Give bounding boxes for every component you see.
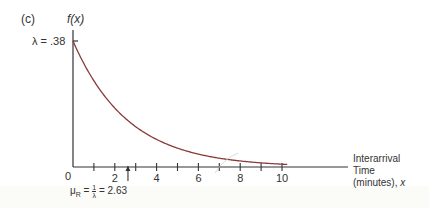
- x-tick-label: 8: [237, 173, 243, 184]
- x-tick-label: 4: [154, 173, 160, 184]
- x-axis-label-line-3: (minutes), x: [353, 177, 405, 189]
- x-tick-label: 10: [276, 173, 288, 184]
- density-curve: [73, 41, 287, 164]
- panel-label: (c): [21, 13, 35, 25]
- x-axis-label-line-2: Time: [353, 165, 405, 177]
- origin-label: 0: [65, 171, 71, 182]
- y-axis-label: f(x): [67, 13, 84, 25]
- x-tick-label: 2: [112, 173, 118, 184]
- lambda-annotation: λ = .38: [32, 36, 65, 47]
- stray-mark: [215, 153, 238, 173]
- x-axis-label-line-1: Interarrival: [353, 153, 405, 165]
- x-axis-label: Interarrival Time (minutes), x: [353, 153, 405, 189]
- mean-annotation: μR = 1λ = 2.63: [70, 184, 127, 199]
- x-tick-label: 6: [195, 173, 201, 184]
